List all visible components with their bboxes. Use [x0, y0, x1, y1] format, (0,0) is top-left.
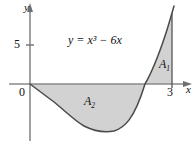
y-axis-label: y	[24, 2, 29, 13]
origin-label: 0	[19, 86, 25, 98]
region-label-a2: A2	[84, 95, 95, 110]
region-label-a2-subscript: 2	[91, 101, 95, 110]
region-label-a1: A1	[159, 58, 170, 73]
x-axis-label: x	[186, 84, 191, 95]
y-tick-label-5: 5	[14, 38, 20, 50]
figure-area-under-cubic-curve: y x 5 0 3 y = x³ − 6x A1 A2	[0, 0, 196, 149]
region-label-a1-subscript: 1	[166, 64, 170, 73]
plot-canvas	[0, 0, 196, 149]
x-tick-label-3: 3	[167, 86, 173, 98]
equation-label: y = x³ − 6x	[68, 34, 122, 46]
